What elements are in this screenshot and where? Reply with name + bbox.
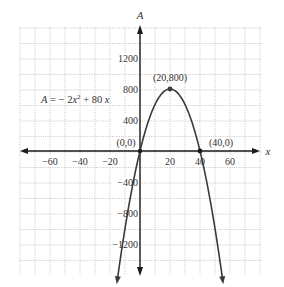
- y-axis-down-arrow-icon: [137, 267, 143, 276]
- x-tick-label: −20: [102, 156, 118, 167]
- vertex-label: (20,800): [153, 72, 187, 84]
- x-tick-label: −60: [42, 156, 58, 167]
- origin-label: (0,0): [116, 137, 135, 149]
- equation-label: A = − 2x2 + 80 x: [40, 93, 110, 105]
- y-tick-label: −1200: [112, 239, 138, 250]
- x-axis-title: x: [265, 145, 271, 157]
- curve-left-arrow-icon: [115, 276, 121, 284]
- x-tick-label: 20: [165, 156, 175, 167]
- y-tick-label: 800: [123, 84, 138, 95]
- x-tick-label: −40: [72, 156, 88, 167]
- origin-point: [138, 149, 142, 153]
- x-axis-left-arrow-icon: [20, 148, 28, 154]
- root-label: (40,0): [209, 137, 233, 149]
- y-tick-label: 1200: [118, 53, 138, 64]
- y-tick-label: −400: [117, 177, 138, 188]
- x-tick-label: 60: [225, 156, 235, 167]
- root-point: [198, 149, 203, 154]
- y-tick-label: −800: [117, 208, 138, 219]
- y-tick-label: 400: [123, 115, 138, 126]
- y-axis-title: A: [136, 9, 144, 21]
- y-axis-up-arrow-icon: [137, 25, 143, 34]
- x-axis-right-arrow-icon: [252, 148, 260, 154]
- curve-right-arrow-icon: [219, 276, 225, 284]
- parabola-chart: −60 −40 −20 20 40 60 1200 800 400 −400 −…: [0, 0, 284, 287]
- x-tick-label: 40: [195, 156, 205, 167]
- vertex-point: [168, 87, 173, 92]
